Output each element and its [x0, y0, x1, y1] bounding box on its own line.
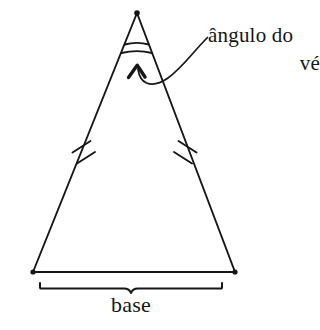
right-side-tick-1: [179, 141, 197, 153]
apex-vertex-dot: [134, 10, 140, 16]
base-left-vertex-dot: [30, 269, 35, 274]
vertex-angle-arcs: [121, 43, 152, 53]
triangle-diagram-svg: [0, 0, 320, 330]
vertex-dots: [30, 10, 237, 274]
base-right-vertex-dot: [232, 269, 237, 274]
vertex-angle-arrowhead: [129, 65, 146, 77]
triangle-right-side: [137, 13, 235, 272]
left-side-tick-marks: [73, 141, 96, 164]
base-label: base: [0, 294, 262, 316]
isosceles-triangle-figure: ângulo do vé base: [0, 0, 320, 330]
vertex-angle-label-line1: ângulo do: [208, 25, 293, 46]
vertex-angle-arc-inner: [125, 43, 149, 45]
triangle-left-side: [33, 13, 137, 272]
vertex-angle-label-line2: vé: [208, 53, 320, 74]
vertex-angle-arc-outer: [121, 51, 152, 53]
